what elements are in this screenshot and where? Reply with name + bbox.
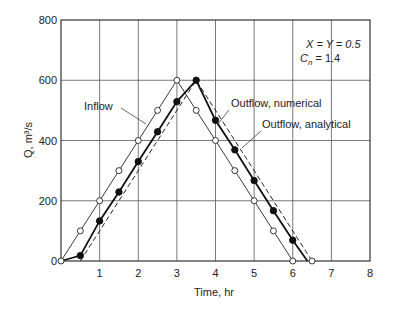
x-tick-label: 8 bbox=[367, 267, 373, 279]
inflow-label: Inflow bbox=[84, 100, 113, 112]
x-tick-label: 5 bbox=[251, 267, 257, 279]
x-tick-label: 6 bbox=[290, 267, 296, 279]
x-tick-label: 7 bbox=[328, 267, 334, 279]
y-tick-label: 200 bbox=[39, 195, 57, 207]
numerical-marker bbox=[290, 237, 296, 243]
hydrograph-chart: 0200400600800 12345678 Inflow Outflow, n… bbox=[0, 0, 393, 309]
outflow-analytical-label: Outflow, analytical bbox=[262, 118, 351, 130]
inflow-marker bbox=[155, 107, 161, 113]
inflow-marker bbox=[251, 198, 257, 204]
x-tick-label: 1 bbox=[97, 267, 103, 279]
inflow-marker bbox=[174, 77, 180, 83]
numerical-marker bbox=[232, 147, 238, 153]
numerical-marker bbox=[154, 129, 160, 135]
x-axis-label: Time, hr bbox=[194, 286, 234, 298]
analytical-end-marker bbox=[309, 258, 315, 264]
x-tick-label: 3 bbox=[174, 267, 180, 279]
numerical-marker bbox=[270, 207, 276, 213]
numerical-marker bbox=[96, 218, 102, 224]
x-axis-ticks: 12345678 bbox=[97, 267, 374, 279]
y-tick-label: 800 bbox=[39, 14, 57, 26]
y-axis-ticks: 0200400600800 bbox=[39, 14, 57, 267]
numerical-marker bbox=[212, 117, 218, 123]
inflow-marker bbox=[193, 107, 199, 113]
outflow-numerical-label: Outflow, numerical bbox=[231, 97, 321, 109]
numerical-marker bbox=[251, 177, 257, 183]
analytical-leader-line bbox=[242, 131, 261, 148]
numerical-marker bbox=[174, 98, 180, 104]
inflow-marker bbox=[135, 138, 141, 144]
numerical-marker bbox=[135, 158, 141, 164]
inflow-marker bbox=[97, 198, 103, 204]
x-tick-label: 4 bbox=[212, 267, 218, 279]
inflow-marker bbox=[58, 258, 64, 264]
numerical-marker bbox=[116, 189, 122, 195]
inflow-marker bbox=[116, 168, 122, 174]
inflow-marker bbox=[77, 228, 83, 234]
numerical-marker bbox=[77, 252, 83, 258]
x-tick-label: 2 bbox=[135, 267, 141, 279]
param-xy: X = Y = 0.5 bbox=[305, 38, 362, 50]
inflow-marker bbox=[290, 258, 296, 264]
param-cn: Cn = 1.4 bbox=[300, 52, 340, 67]
inflow-leader-line bbox=[121, 108, 146, 124]
inflow-marker bbox=[270, 228, 276, 234]
y-axis-label: Q, m³/s bbox=[22, 121, 34, 158]
parameters-box: X = Y = 0.5 Cn = 1.4 bbox=[300, 38, 362, 67]
y-tick-label: 400 bbox=[39, 135, 57, 147]
numerical-marker bbox=[193, 77, 199, 83]
inflow-marker bbox=[213, 138, 219, 144]
inflow-marker bbox=[232, 168, 238, 174]
y-tick-label: 0 bbox=[51, 255, 57, 267]
y-tick-label: 600 bbox=[39, 74, 57, 86]
